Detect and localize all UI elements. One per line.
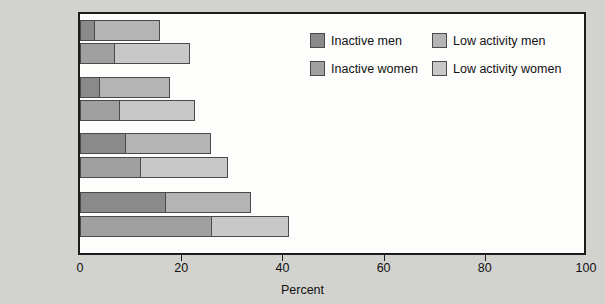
x-axis-title: Percent	[0, 283, 605, 297]
bar-segment-low-activity-women	[114, 43, 190, 64]
bar-segment-inactive-women	[80, 100, 120, 121]
bar-segment-low-activity-women	[119, 100, 195, 121]
legend-swatch-icon	[310, 61, 325, 76]
x-tick-label-100: 100	[576, 261, 597, 275]
legend-item-low-activity-men: Low activity men	[432, 33, 545, 48]
bar-men-25-44	[80, 77, 171, 98]
legend-label: Low activity men	[453, 34, 545, 48]
bar-segment-inactive-men	[80, 20, 95, 41]
chart-legend: Inactive men Inactive women Low activity…	[310, 33, 580, 85]
bar-segment-low-activity-women	[211, 216, 289, 237]
x-tick-label-60: 60	[377, 261, 391, 275]
x-tick-label-80: 80	[478, 261, 492, 275]
legend-item-low-activity-women: Low activity women	[432, 61, 561, 76]
bar-segment-low-activity-men	[99, 77, 170, 98]
x-tick-label-0: 0	[77, 261, 84, 275]
legend-label: Inactive women	[331, 62, 418, 76]
bar-segment-inactive-men	[80, 192, 166, 213]
legend-swatch-icon	[310, 33, 325, 48]
bar-segment-inactive-women	[80, 216, 212, 237]
bar-segment-inactive-women	[80, 43, 115, 64]
stacked-bar-chart: 18-24 years 25-44 years 45-64 years 65 y…	[0, 0, 605, 304]
bar-women-25-44	[80, 100, 196, 121]
bar-women-65-and-over	[80, 216, 290, 237]
legend-item-inactive-women: Inactive women	[310, 61, 418, 76]
legend-item-inactive-men: Inactive men	[310, 33, 402, 48]
bar-segment-inactive-men	[80, 77, 100, 98]
bar-segment-inactive-women	[80, 157, 141, 178]
bar-men-18-24	[80, 20, 161, 41]
bar-segment-low-activity-men	[165, 192, 251, 213]
x-tick-label-20: 20	[174, 261, 188, 275]
bar-segment-inactive-men	[80, 133, 126, 154]
bar-segment-low-activity-men	[94, 20, 160, 41]
bar-women-45-64	[80, 157, 229, 178]
bar-men-65-and-over	[80, 192, 252, 213]
legend-label: Inactive men	[331, 34, 402, 48]
bar-women-18-24	[80, 43, 191, 64]
legend-swatch-icon	[432, 61, 447, 76]
bar-segment-low-activity-women	[140, 157, 229, 178]
legend-label: Low activity women	[453, 62, 561, 76]
bar-men-45-64	[80, 133, 212, 154]
x-tick-label-40: 40	[275, 261, 289, 275]
legend-swatch-icon	[432, 33, 447, 48]
bar-segment-low-activity-men	[125, 133, 211, 154]
